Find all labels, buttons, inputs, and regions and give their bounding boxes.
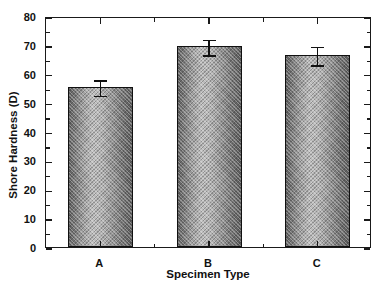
x-axis-minor-tick [154,244,155,248]
bar-chart-figure: Shore Hardness (D) Specimen Type 0102030… [0,0,386,290]
y-axis-tick-label: 40 [0,127,36,139]
y-axis-major-tick [46,219,52,220]
y-axis-minor-tick [46,234,50,235]
y-axis-major-tick [46,191,52,192]
y-axis-major-tick [46,75,52,76]
y-axis-minor-tick [367,61,371,62]
x-axis-major-tick [100,241,101,247]
y-axis-minor-tick [367,205,371,206]
x-axis-major-tick [100,18,101,24]
x-axis-title: Specimen Type [45,268,371,280]
y-axis-tick-label: 20 [0,184,36,196]
y-axis-tick-label: 50 [0,98,36,110]
y-axis-major-tick [364,133,370,134]
y-axis-minor-tick [367,90,371,91]
y-axis-minor-tick [46,176,50,177]
x-axis-minor-tick [154,18,155,22]
y-axis-major-tick [364,17,370,18]
y-axis-major-tick [364,162,370,163]
y-axis-tick-label: 10 [0,213,36,225]
x-axis-major-tick [208,18,209,24]
plot-inner [46,18,370,247]
x-axis-tick-label: B [204,257,212,269]
bar [285,55,350,247]
y-axis-major-tick [364,191,370,192]
x-axis-major-tick [208,241,209,247]
y-axis-minor-tick [367,147,371,148]
y-axis-minor-tick [367,118,371,119]
y-axis-minor-tick [46,90,50,91]
y-axis-minor-tick [367,176,371,177]
y-axis-major-tick [364,75,370,76]
y-axis-tick-label: 70 [0,40,36,52]
y-axis-tick-label: 30 [0,155,36,167]
y-axis-minor-tick [46,147,50,148]
x-axis-minor-tick [263,244,264,248]
error-bar-stem [317,47,319,67]
x-axis-tick-label: A [95,257,103,269]
plot-area [45,17,371,248]
y-axis-major-tick [46,162,52,163]
x-axis-minor-tick [263,18,264,22]
error-bar-cap-lower [203,55,216,57]
y-axis-minor-tick [46,118,50,119]
y-axis-major-tick [46,248,52,249]
y-axis-major-tick [46,46,52,47]
error-bar [90,80,110,97]
error-bar-stem [208,40,210,57]
y-axis-tick-label: 60 [0,69,36,81]
y-axis-tick-label: 0 [0,242,36,254]
y-axis-minor-tick [46,32,50,33]
y-axis-tick-label: 80 [0,11,36,23]
y-axis-major-tick [364,248,370,249]
y-axis-minor-tick [46,61,50,62]
y-axis-major-tick [46,133,52,134]
error-bar-stem [100,80,102,97]
error-bar-cap-lower [94,96,107,98]
bar [68,87,133,247]
y-axis-major-tick [46,17,52,18]
y-axis-major-tick [364,46,370,47]
y-axis-minor-tick [367,32,371,33]
y-axis-minor-tick [367,234,371,235]
y-axis-minor-tick [46,205,50,206]
error-bar-cap-lower [311,65,324,67]
y-axis-major-tick [364,219,370,220]
error-bar [308,47,328,67]
bar [177,46,242,247]
y-axis-major-tick [364,104,370,105]
error-bar [199,40,219,57]
x-axis-major-tick [317,18,318,24]
y-axis-major-tick [46,104,52,105]
x-axis-major-tick [317,241,318,247]
x-axis-tick-label: C [313,257,321,269]
